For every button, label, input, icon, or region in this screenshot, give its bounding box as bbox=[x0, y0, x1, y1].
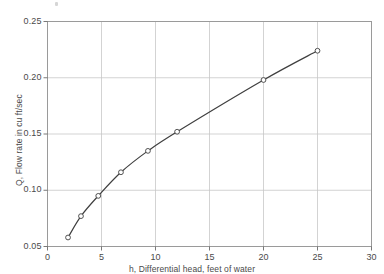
data-point-marker bbox=[146, 148, 151, 153]
y-tick-label: 0.05 bbox=[24, 241, 42, 251]
x-axis-title: h, Differential head, feet of water bbox=[0, 264, 384, 274]
data-point-marker bbox=[79, 214, 84, 219]
y-tick-label: 0.10 bbox=[24, 184, 42, 194]
gridlines bbox=[48, 22, 372, 247]
data-point-marker bbox=[175, 129, 180, 134]
y-tick-label: 0.25 bbox=[24, 16, 42, 26]
y-axis-title: Q, Flow rate in cu ft/sec bbox=[14, 94, 24, 186]
x-tick-label: 15 bbox=[190, 252, 230, 262]
x-tick-label: 10 bbox=[136, 252, 176, 262]
data-point-marker bbox=[315, 48, 320, 53]
data-point-marker bbox=[261, 78, 266, 83]
data-point-marker bbox=[66, 235, 71, 240]
axis-ticks bbox=[44, 22, 372, 251]
data-point-marker bbox=[96, 193, 101, 198]
x-tick-label: 5 bbox=[82, 252, 122, 262]
data-point-marker bbox=[119, 170, 124, 175]
x-tick-label: 0 bbox=[28, 252, 68, 262]
x-tick-label: 30 bbox=[352, 252, 384, 262]
x-tick-label: 25 bbox=[298, 252, 338, 262]
x-tick-label: 20 bbox=[244, 252, 284, 262]
y-tick-label: 0.15 bbox=[24, 128, 42, 138]
y-tick-label: 0.20 bbox=[24, 72, 42, 82]
series-markers bbox=[66, 48, 320, 240]
series-line-q-vs-h bbox=[68, 51, 317, 238]
